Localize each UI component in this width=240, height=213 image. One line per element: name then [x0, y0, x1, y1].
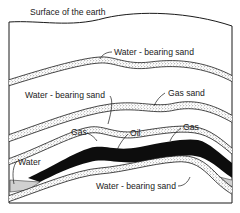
label-oil: Oil — [130, 128, 141, 138]
label-gas-sand: Gas sand — [168, 88, 205, 98]
label-water: Water — [18, 157, 41, 167]
label-gas-right: Gas — [183, 122, 199, 132]
label-surface: Surface of the earth — [30, 7, 106, 17]
label-gas-left: Gas — [71, 127, 87, 137]
label-water-sand-middle: Water - bearing sand — [25, 90, 105, 100]
label-water-sand-lower: Water - bearing sand — [96, 181, 176, 191]
geological-cross-section: Surface of the earth Water - bearing san… — [0, 0, 240, 213]
label-water-sand-upper: Water - bearing sand — [114, 47, 194, 57]
